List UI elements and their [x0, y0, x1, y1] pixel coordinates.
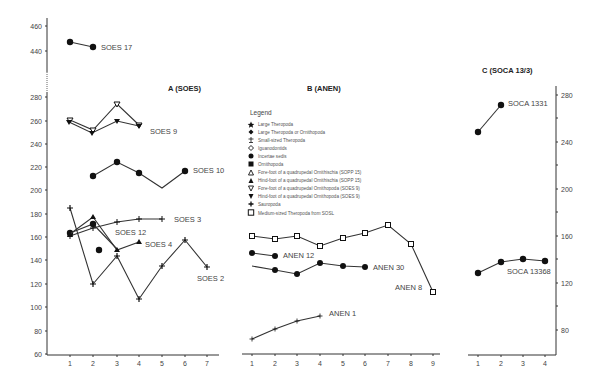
footprint-chart: 460 440 280 260 240 220 200 180 160 140 … — [0, 0, 599, 384]
svg-text:280: 280 — [561, 92, 573, 99]
series-anen1: ANEN 1 — [250, 309, 357, 342]
svg-text:200: 200 — [561, 186, 573, 193]
svg-text:60: 60 — [34, 351, 42, 358]
svg-text:280: 280 — [30, 94, 42, 101]
svg-text:6: 6 — [363, 360, 367, 367]
svg-text:80: 80 — [34, 328, 42, 335]
svg-text:2: 2 — [273, 360, 277, 367]
svg-text:SOES 3: SOES 3 — [174, 215, 201, 224]
svg-text:260: 260 — [30, 118, 42, 125]
svg-text:Ornithopoda: Ornithopoda — [258, 162, 284, 167]
legend: Legend Large Theropoda Large Theropoda o… — [248, 109, 362, 216]
svg-text:140: 140 — [30, 257, 42, 264]
svg-text:7: 7 — [386, 360, 390, 367]
series-soca1331: SOCA 1331 — [475, 99, 548, 135]
legend-item-large-theropoda: Large Theropoda — [248, 122, 294, 128]
series-soes17: SOES 17 — [67, 39, 132, 52]
legend-item-hindfoot-ornithopoda: Hind-foot of a quadrupedal Ornithopoda (… — [249, 194, 361, 199]
panel-c-title: C (SOCA 13/3) — [482, 66, 533, 75]
svg-text:SOCA 1331: SOCA 1331 — [508, 99, 548, 108]
legend-item-iguanodontids: Iguanodontids — [249, 146, 288, 152]
svg-text:Fore-foot of a quadrupedal Orn: Fore-foot of a quadrupedal Ornithischia … — [258, 170, 362, 175]
svg-text:80: 80 — [561, 327, 569, 334]
legend-item-forefoot-ornithopoda: Fore-foot of a quadrupedal Ornithopoda (… — [249, 186, 361, 191]
svg-text:8: 8 — [409, 360, 413, 367]
svg-text:4: 4 — [543, 360, 547, 367]
svg-text:SOES 17: SOES 17 — [101, 43, 132, 52]
svg-text:Large Theropoda: Large Theropoda — [258, 122, 294, 127]
svg-text:Iguanodontids: Iguanodontids — [258, 146, 288, 151]
svg-text:SOES 12: SOES 12 — [115, 228, 146, 237]
svg-text:180: 180 — [30, 211, 42, 218]
svg-text:Fore-foot of a quadrupedal Orn: Fore-foot of a quadrupedal Ornithopoda (… — [258, 186, 360, 191]
c-y-ticks: 280 240 200 160 120 80 — [556, 92, 573, 334]
panel-c: 280 240 200 160 120 80 1 2 3 4 C (SOCA 1… — [468, 66, 573, 367]
c-x-ticks: 1 2 3 4 — [476, 355, 547, 367]
svg-text:5: 5 — [160, 360, 164, 367]
svg-text:Incertae sedis: Incertae sedis — [258, 154, 287, 159]
svg-text:4: 4 — [137, 360, 141, 367]
svg-text:1: 1 — [250, 360, 254, 367]
series-anen8: ANEN 8 — [250, 223, 436, 295]
svg-text:Large Theropoda or Ornithopoda: Large Theropoda or Ornithopoda — [258, 130, 326, 135]
b-x-ticks: 1 2 3 4 5 6 7 8 9 — [250, 354, 435, 367]
svg-text:160: 160 — [30, 234, 42, 241]
a-y-ticks: 460 440 280 260 240 220 200 180 160 140 … — [30, 23, 47, 358]
legend-title: Legend — [250, 109, 272, 117]
svg-text:240: 240 — [30, 141, 42, 148]
svg-text:ANEN 8: ANEN 8 — [395, 283, 422, 292]
svg-text:Hind-foot of a quadrupedal Orn: Hind-foot of a quadrupedal Ornithischia … — [258, 178, 362, 183]
svg-text:SOES 10: SOES 10 — [193, 166, 224, 175]
legend-item-large-theropoda-or-ornithopoda: Large Theropoda or Ornithopoda — [249, 130, 326, 136]
legend-item-hindfoot-ornithischia: Hind-foot of a quadrupedal Ornithischia … — [249, 178, 362, 183]
svg-text:Medium-sized Theropoda from SO: Medium-sized Theropoda from SOSL — [258, 211, 334, 216]
series-soes9: SOES 9 — [66, 102, 177, 136]
svg-text:100: 100 — [30, 304, 42, 311]
svg-text:Sauropoda: Sauropoda — [258, 202, 281, 207]
svg-text:460: 460 — [30, 23, 42, 30]
svg-text:1: 1 — [68, 360, 72, 367]
svg-text:2: 2 — [499, 360, 503, 367]
svg-text:7: 7 — [205, 360, 209, 367]
svg-text:SOCA 13368: SOCA 13368 — [507, 267, 551, 276]
svg-text:440: 440 — [30, 48, 42, 55]
svg-text:SOES 2: SOES 2 — [197, 274, 224, 283]
svg-text:120: 120 — [561, 280, 573, 287]
svg-text:9: 9 — [431, 360, 435, 367]
svg-text:SOES 4: SOES 4 — [145, 240, 172, 249]
svg-text:3: 3 — [115, 360, 119, 367]
svg-text:2: 2 — [91, 360, 95, 367]
legend-item-sauropoda: Sauropoda — [249, 202, 281, 208]
svg-text:120: 120 — [30, 281, 42, 288]
panel-a-title: A (SOES) — [168, 84, 202, 93]
svg-text:5: 5 — [341, 360, 345, 367]
svg-text:ANEN 12: ANEN 12 — [283, 251, 314, 260]
svg-text:3: 3 — [295, 360, 299, 367]
legend-item-incertae-sedis: Incertae sedis — [249, 154, 288, 160]
svg-text:220: 220 — [30, 164, 42, 171]
svg-text:Hind-foot of a quadrupedal Orn: Hind-foot of a quadrupedal Ornithopoda (… — [258, 194, 360, 199]
a-x-ticks: 1 2 3 4 5 6 7 — [68, 355, 209, 367]
svg-text:3: 3 — [521, 360, 525, 367]
svg-text:1: 1 — [476, 360, 480, 367]
panel-a: 460 440 280 260 240 220 200 180 160 140 … — [30, 18, 224, 367]
legend-item-medium-theropoda-sosl: Medium-sized Theropoda from SOSL — [248, 210, 334, 216]
svg-text:240: 240 — [561, 139, 573, 146]
svg-text:4: 4 — [318, 360, 322, 367]
svg-text:200: 200 — [30, 187, 42, 194]
series-anen12: ANEN 12 — [249, 250, 314, 260]
panel-b: 1 2 3 4 5 6 7 8 9 B (ANEN) Legend Large … — [242, 84, 440, 367]
legend-item-ornithopoda: Ornithopoda — [249, 162, 284, 168]
legend-item-forefoot-ornithischia: Fore-foot of a quadrupedal Ornithischia … — [249, 170, 362, 175]
svg-text:ANEN 1: ANEN 1 — [329, 309, 356, 318]
svg-text:SOES 9: SOES 9 — [150, 127, 177, 136]
svg-text:160: 160 — [561, 233, 573, 240]
svg-text:6: 6 — [183, 360, 187, 367]
svg-text:ANEN 30: ANEN 30 — [373, 263, 404, 272]
series-anen30: ANEN 30 — [252, 260, 404, 277]
svg-text:Small-sized Theropoda: Small-sized Theropoda — [258, 138, 306, 143]
series-soca13368: SOCA 13368 — [475, 256, 551, 276]
panel-b-title: B (ANEN) — [307, 84, 341, 93]
series-soes10: SOES 10 — [90, 159, 224, 188]
legend-item-small-theropoda: Small-sized Theropoda — [249, 137, 306, 143]
